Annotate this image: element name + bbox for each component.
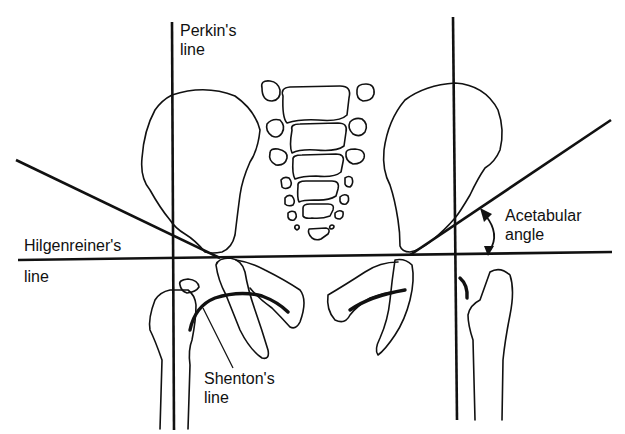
label-acetabular-angle: Acetabular angle: [505, 206, 582, 244]
ischium-pubis-left: [216, 258, 268, 358]
pelvis-diagram: Perkin's line Hilgenreiner's line Acetab…: [0, 0, 625, 434]
label-perkins-line-1: Perkin's: [180, 21, 236, 40]
label-acetabular-angle-1: Acetabular: [505, 206, 582, 225]
femur-right: [468, 270, 513, 420]
ischium-pubis-right: [376, 260, 413, 355]
label-shentons-line-2: line: [204, 388, 275, 407]
sacrum: [262, 81, 374, 240]
label-perkins-line-2: line: [180, 40, 236, 59]
acetabular-angle-arrow: [480, 208, 494, 256]
label-perkins-line: Perkin's line: [180, 21, 236, 59]
label-hilgenreiners-line-1: Hilgenreiner's: [24, 236, 121, 255]
label-acetabular-angle-2: angle: [505, 225, 582, 244]
label-shentons-line: Shenton's line: [204, 369, 275, 407]
label-shentons-line-1: Shenton's: [204, 369, 275, 388]
label-hilgenreiners-line-2: line: [24, 267, 49, 286]
shentons-line-right: [460, 278, 467, 298]
perkins-line-left: [172, 22, 174, 430]
shenton-leader-line: [203, 308, 233, 368]
ilium-right: [384, 83, 502, 252]
